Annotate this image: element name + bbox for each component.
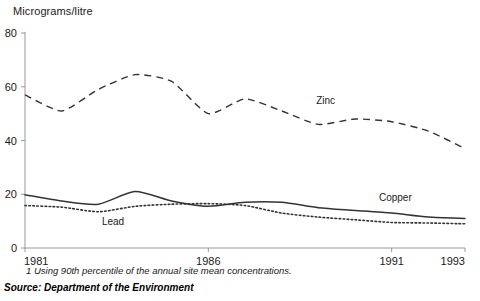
source-note: Source: Department of the Environment (4, 282, 193, 293)
y-tick-label: 40 (5, 135, 17, 147)
y-tick-label: 0 (11, 242, 17, 254)
series-label-zinc: Zinc (316, 95, 335, 106)
x-tick-label: 1993 (441, 255, 465, 267)
chart-page: Micrograms/litre 020406080 1981198619911… (0, 0, 480, 301)
y-tick-label: 20 (5, 188, 17, 200)
series-line-zinc (25, 75, 465, 149)
y-tick-label: 80 (5, 27, 17, 39)
footnote: 1 Using 90th percentile of the annual si… (26, 265, 292, 276)
series-label-lead: Lead (102, 216, 124, 227)
x-tick-label: 1991 (379, 255, 403, 267)
line-chart: 020406080 1981198619911993 ZincCopperLea… (0, 0, 480, 301)
y-axis: 020406080 (5, 27, 25, 254)
series-label-copper: Copper (379, 192, 412, 203)
y-tick-label: 60 (5, 81, 17, 93)
